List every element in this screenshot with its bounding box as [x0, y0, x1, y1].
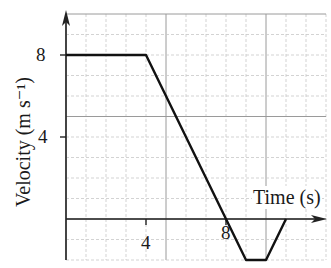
chart-canvas [0, 0, 331, 268]
x-axis-label: Time (s) [252, 186, 322, 209]
axes [60, 10, 327, 260]
y-axis-label: Velocity (m s⁻¹) [11, 67, 35, 217]
xtick-4: 4 [141, 233, 151, 252]
ytick-8: 8 [36, 45, 46, 64]
grid [66, 14, 326, 260]
ytick-4: 4 [38, 127, 48, 146]
xtick-8: 8 [221, 223, 231, 242]
